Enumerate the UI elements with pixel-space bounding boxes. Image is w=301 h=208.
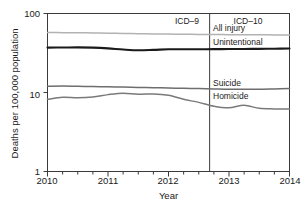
series-line-suicide <box>48 86 290 89</box>
series-label-suicide: Suicide <box>213 78 241 88</box>
x-tick-label-2010: 2010 <box>27 175 67 186</box>
series-line-all-injury <box>48 32 290 35</box>
x-tick-label-2014: 2014 <box>270 175 301 186</box>
series-line-unintentional <box>48 47 290 50</box>
y-tick-label-100: 100 <box>8 8 40 19</box>
series-label-homicide: Homicide <box>213 91 248 101</box>
series-label-unintentional: Unintentional <box>213 37 263 47</box>
x-tick-label-2013: 2013 <box>209 175 249 186</box>
y-tick-label-10: 10 <box>8 89 40 100</box>
series-label-all-injury: All injury <box>213 23 245 33</box>
x-axis-title: Year <box>47 190 290 201</box>
x-tick-label-2012: 2012 <box>148 175 188 186</box>
x-tick-label-2011: 2011 <box>88 175 128 186</box>
line-chart: Deaths per 100,000 population 100 10 1 2… <box>0 0 301 208</box>
series-line-homicide <box>48 93 290 109</box>
annotation-icd9: ICD–9 <box>152 16 222 26</box>
